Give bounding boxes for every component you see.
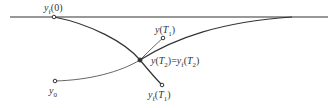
label-yT1: y(T1): [155, 25, 175, 38]
state-trajectory: [55, 60, 140, 81]
reference-trajectory: [54, 17, 162, 85]
label-yfT1: yf(T1): [148, 90, 171, 103]
label-y0: y0: [49, 86, 57, 99]
label-intersection: y(T2)=yf(T2): [151, 56, 199, 69]
label-yf0: yf(0): [44, 3, 62, 16]
point-yfT1: [160, 83, 164, 87]
point-y0: [53, 79, 57, 83]
point-intersection: [138, 58, 142, 62]
